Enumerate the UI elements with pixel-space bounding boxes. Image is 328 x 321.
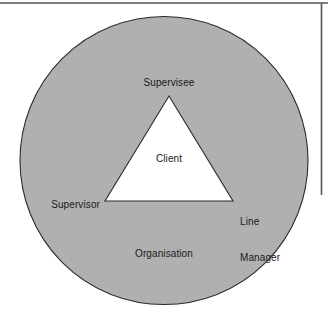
label-organisation: Organisation — [135, 248, 193, 260]
label-line-manager-line1: Line — [240, 216, 280, 228]
label-line-manager-line2: Manager — [240, 252, 280, 264]
label-client: Client — [156, 153, 182, 165]
diagram-canvas: Supervisee Client Supervisor Line Manage… — [0, 0, 328, 321]
label-supervisee: Supervisee — [143, 77, 194, 89]
label-supervisor: Supervisor — [51, 199, 100, 211]
label-line-manager: Line Manager — [240, 192, 280, 288]
